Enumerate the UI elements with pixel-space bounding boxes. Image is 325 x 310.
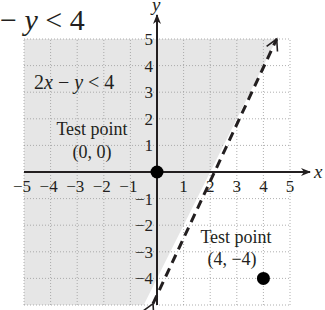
x-tick-label: −3 <box>66 177 84 196</box>
y-tick-label: 5 <box>145 30 154 49</box>
x-tick-label: −5 <box>13 177 31 196</box>
x-tick-label: −2 <box>93 177 111 196</box>
header-equation-var: y <box>21 3 38 36</box>
y-tick-label: −3 <box>135 243 153 262</box>
test-point-marker <box>151 166 164 179</box>
x-tick-label: −4 <box>40 177 59 196</box>
x-axis-label: x <box>313 161 323 182</box>
header-equation-suffix: < 4 <box>38 3 85 36</box>
y-tick-label: 4 <box>145 57 154 76</box>
ineq-part-y: y <box>72 71 83 94</box>
y-tick-label: −4 <box>135 269 154 288</box>
test-point-2-label: Test point <box>200 227 271 247</box>
x-tick-label: 5 <box>286 177 295 196</box>
x-tick-label: 4 <box>259 177 268 196</box>
test-point-2-coords: (4, −4) <box>207 249 256 270</box>
ineq-part-minus: − <box>53 71 74 93</box>
header-equation: − y < 4 <box>0 3 85 36</box>
y-tick-label: −1 <box>135 190 153 209</box>
ineq-part-rhs: < 4 <box>83 71 114 93</box>
ineq-part-x: x <box>43 71 53 93</box>
header-equation-prefix: − <box>0 3 24 36</box>
test-point-marker <box>257 272 270 285</box>
y-axis-label: y <box>150 0 161 15</box>
y-tick-label: −2 <box>135 216 153 235</box>
y-tick-label: 2 <box>145 110 154 129</box>
inequality-graph: x y −5−4−3−2−112345 54321−1−2−3−4 − y < … <box>0 0 325 310</box>
x-tick-label: 1 <box>179 177 188 196</box>
ineq-part-coef: 2 <box>34 71 44 93</box>
y-tick-label: 1 <box>145 136 154 155</box>
y-tick-label: 3 <box>145 83 154 102</box>
inequality-label: 2x − y < 4 <box>34 71 114 94</box>
test-point-1-coords: (0, 0) <box>73 142 112 163</box>
x-tick-label: 3 <box>233 177 242 196</box>
test-point-1-label: Test point <box>56 119 127 139</box>
